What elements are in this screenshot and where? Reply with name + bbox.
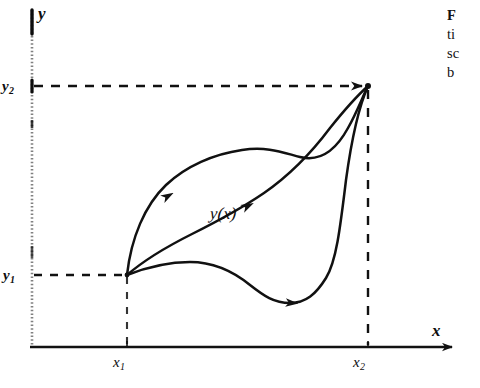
curve-lower-path: [127, 86, 368, 303]
caption-line-2: ti: [447, 25, 480, 44]
tick-label-y2: y2: [2, 79, 14, 96]
tick-label-x1: x1: [113, 355, 125, 372]
tick-x1-base: x: [113, 354, 120, 370]
figure-root: y x y2 y1 x1 x2 y(x) F ti sc b: [0, 0, 480, 388]
y-axis-label: y: [38, 5, 46, 22]
endpoint-end-node: [365, 83, 371, 89]
plot-canvas: [0, 0, 480, 388]
tick-x1-subscript: 1: [120, 361, 125, 372]
tick-label-y1: y1: [3, 268, 15, 285]
tick-x2-subscript: 2: [360, 361, 365, 372]
tick-label-x2: x2: [353, 355, 365, 372]
tick-y1-base: y: [3, 267, 10, 283]
caption-line-3: sc: [447, 44, 480, 63]
tick-y2-subscript: 2: [9, 85, 14, 96]
caption-line-1: F: [447, 6, 480, 25]
curve-true-path: [127, 86, 368, 275]
endpoint-start-node: [125, 273, 130, 278]
tick-x2-base: x: [353, 354, 360, 370]
caption-line-4: b: [447, 63, 480, 82]
tick-y1-subscript: 1: [10, 274, 15, 285]
tick-y2-base: y: [2, 78, 9, 94]
caption-block: F ti sc b: [447, 6, 480, 82]
curve-upper-path: [127, 86, 368, 275]
curve-function-label: y(x): [209, 205, 237, 222]
x-axis-label: x: [432, 322, 441, 339]
